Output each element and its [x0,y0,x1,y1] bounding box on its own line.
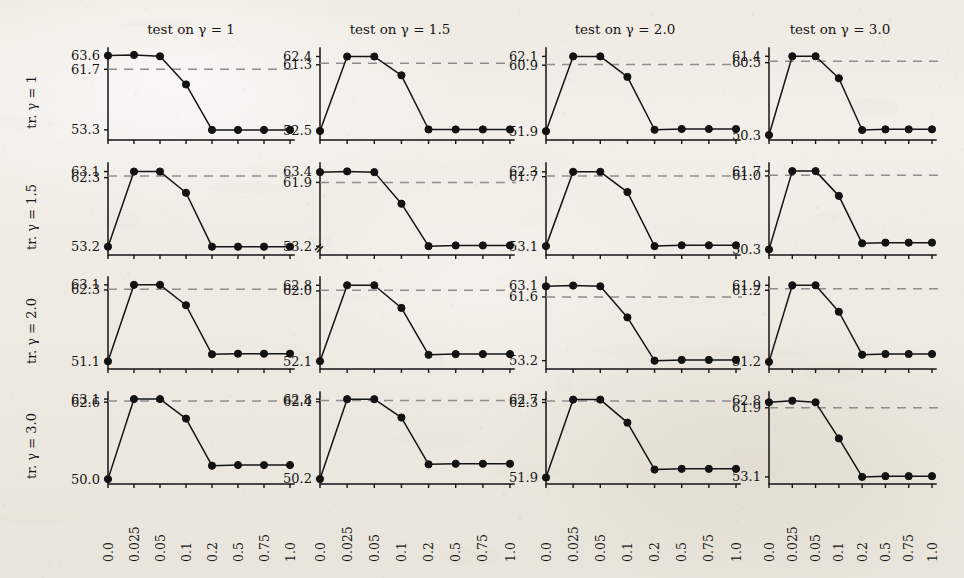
panel-r3-c1: 62.862.450.2 [283,392,516,488]
x-tick-label: 0.025 [566,526,581,562]
data-point [542,474,549,481]
y-tick-label: 52.5 [283,123,312,138]
series-line [769,171,932,249]
x-tick-label: 0.05 [808,534,823,562]
series-line [320,57,510,131]
data-point [208,126,215,133]
y-tick-label: 62.4 [283,394,312,409]
data-point [882,350,889,357]
data-point [425,461,432,468]
panel-r2-c1: 62.862.052.1 [283,277,516,373]
data-point [835,308,842,315]
data-point [765,399,772,406]
data-point [812,168,819,175]
y-tick-label: 53.2 [283,239,312,254]
y-tick-label: 50.3 [732,128,761,143]
y-tick-label: 53.2 [71,239,100,254]
data-point [597,53,604,60]
column-title-3: test on γ = 3.0 [790,21,891,37]
data-point [260,461,267,468]
y-tick-label: 61.6 [509,289,538,304]
x-tick-label: 0.75 [701,534,716,562]
data-point [156,53,163,60]
series-line [546,172,736,246]
data-point [156,395,163,402]
data-point [835,435,842,442]
data-point [234,243,241,250]
y-tick-label: 62.3 [71,282,100,297]
series-line [108,55,290,130]
y-tick-label: 61.0 [732,168,761,183]
data-point [705,242,712,249]
data-point [651,466,658,473]
y-tick-label: 50.2 [283,471,312,486]
data-point [182,81,189,88]
figure-svg: test on γ = 1test on γ = 1.5test on γ = … [0,0,964,578]
data-point [479,460,486,467]
panel-r1-c1: 63.461.953.2 [283,163,516,259]
data-point [624,188,631,195]
y-tick-label: 50.0 [71,472,100,487]
data-point [789,168,796,175]
data-point [928,473,935,480]
data-point [452,126,459,133]
y-tick-label: 60.9 [509,58,538,73]
data-point [344,53,351,60]
x-tick-label: 0.05 [367,534,382,562]
data-point [651,357,658,364]
y-tick-label: 53.1 [732,469,761,484]
data-point [104,243,111,250]
column-title-2: test on γ = 2.0 [575,21,676,37]
x-tick-label: 0.75 [257,534,272,562]
data-point [182,302,189,309]
data-point [678,356,685,363]
row-label-0: tr. γ = 1 [24,75,39,128]
x-tick-label: 0.1 [620,542,635,562]
data-point [425,126,432,133]
data-point [316,475,323,482]
data-point [371,53,378,60]
figure-panel-grid: test on γ = 1test on γ = 1.5test on γ = … [0,0,964,578]
data-point [130,395,137,402]
y-tick-label: 61.9 [283,175,312,190]
data-point [859,126,866,133]
x-tick-label: 1.0 [283,542,298,562]
data-point [705,465,712,472]
column-title-1: test on γ = 1.5 [350,21,451,37]
panel-r0-c0: 63.661.753.3 [71,48,296,144]
data-point [234,126,241,133]
data-point [905,126,912,133]
panel-r1-c3: 61.761.050.3 [732,163,938,259]
y-tick-label: 61.3 [283,57,312,72]
data-point [570,53,577,60]
panel-r2-c2: 63.161.653.2 [509,277,742,373]
data-point [398,414,405,421]
y-tick-label: 60.5 [732,55,761,70]
y-tick-label: 51.1 [71,354,100,369]
data-point [705,125,712,132]
data-point [371,396,378,403]
data-point [208,351,215,358]
data-point [479,351,486,358]
data-point [859,351,866,358]
row-label-1: tr. γ = 1.5 [24,184,39,250]
data-point [316,127,323,134]
data-point [130,51,137,58]
data-point [371,282,378,289]
data-point [859,473,866,480]
data-point [156,281,163,288]
data-point [182,189,189,196]
data-point [928,126,935,133]
x-tick-label: 0.025 [127,526,142,562]
panel-r3-c0: 63.162.650.0 [71,392,296,488]
data-point [835,75,842,82]
data-point [130,281,137,288]
data-point [928,350,935,357]
y-tick-label: 53.1 [509,239,538,254]
data-point [624,314,631,321]
data-point [812,282,819,289]
data-point [882,126,889,133]
x-tick-label: 0.025 [785,526,800,562]
x-tick-label: 0.0 [313,542,328,562]
x-tick-label: 0.0 [539,542,554,562]
